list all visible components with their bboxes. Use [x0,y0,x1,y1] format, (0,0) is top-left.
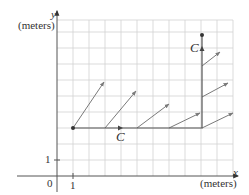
vector-arrow [202,83,228,97]
origin-label-text: 0 [47,178,53,189]
vector-arrow [169,113,200,128]
y-axis-unit: (meters) [18,20,55,31]
vector-arrow [73,82,104,128]
start-point-dot [71,126,75,130]
y-tick-label-1: 1 [45,154,51,165]
curve-c [73,35,202,128]
curve-endpoints [71,33,204,130]
vector-arrow [202,113,233,128]
curve-label-bottom: C [116,130,125,143]
arrowhead-up-icon [200,46,205,51]
end-point-dot [200,33,204,37]
vector-arrow [105,91,136,128]
x-tick-label-1: 1 [70,180,76,191]
grid [57,20,233,176]
curve-direction-markers [118,46,205,131]
curve-label-right: C [190,41,199,54]
x-axis-unit: (meters) [200,178,237,189]
